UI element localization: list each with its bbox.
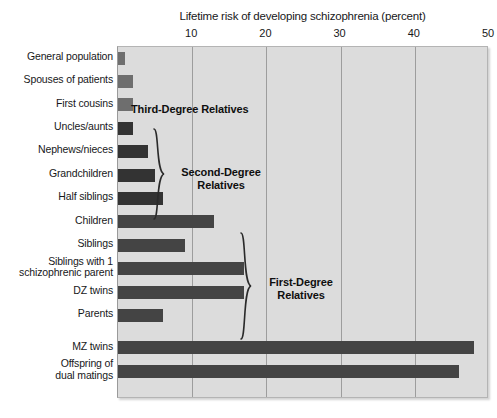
x-axis-tick-labels: 1020304050 xyxy=(0,27,497,43)
chart-figure: Lifetime risk of developing schizophreni… xyxy=(0,0,497,418)
bracket-first-degree xyxy=(239,232,253,340)
category-label: Half siblings xyxy=(0,191,113,203)
y-axis-category-labels: General populationSpouses of patientsFir… xyxy=(0,46,113,398)
bar xyxy=(118,341,474,354)
bar xyxy=(118,169,155,182)
bar xyxy=(118,262,244,275)
category-label: Spouses of patients xyxy=(0,74,113,86)
category-label: Nephews/nieces xyxy=(0,144,113,156)
bar xyxy=(118,286,244,299)
category-label: General population xyxy=(0,51,113,63)
category-label: MZ twins xyxy=(0,341,113,353)
plot-area xyxy=(117,46,488,398)
category-label: Children xyxy=(0,215,113,227)
x-tick-label-30: 30 xyxy=(333,27,345,39)
bar xyxy=(118,75,133,88)
category-label: Siblings xyxy=(0,238,113,250)
category-label: Offspring of dual matings xyxy=(0,358,113,381)
category-label: Siblings with 1 schizophrenic parent xyxy=(0,256,113,279)
chart-axis-title: Lifetime risk of developing schizophreni… xyxy=(117,10,488,22)
bar xyxy=(118,309,163,322)
category-label: First cousins xyxy=(0,98,113,110)
x-tick-label-50: 50 xyxy=(482,27,494,39)
category-label: Uncles/aunts xyxy=(0,121,113,133)
annotation-first-degree-relatives: First-Degree Relatives xyxy=(256,276,346,302)
bar xyxy=(118,239,185,252)
annotation-third-degree-relatives: Third-Degree Relatives xyxy=(131,103,249,116)
bar xyxy=(118,122,133,135)
bar xyxy=(118,215,214,228)
bar xyxy=(118,145,148,158)
bar xyxy=(118,365,459,378)
bar xyxy=(118,52,125,65)
category-label: Grandchildren xyxy=(0,168,113,180)
x-tick-label-20: 20 xyxy=(259,27,271,39)
category-label: DZ twins xyxy=(0,285,113,297)
annotation-second-degree-relatives: Second-Degree Relatives xyxy=(172,166,270,192)
bracket-second-degree xyxy=(152,128,166,220)
x-tick-label-40: 40 xyxy=(408,27,420,39)
category-label: Parents xyxy=(0,308,113,320)
x-tick-label-10: 10 xyxy=(185,27,197,39)
